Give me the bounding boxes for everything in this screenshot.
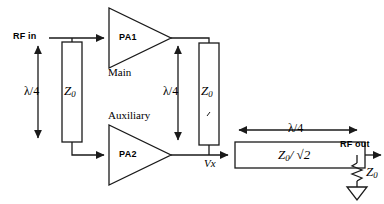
offset-stub-length-label: λ/4 xyxy=(163,85,178,97)
rf-input-label: RF in xyxy=(13,32,37,41)
main-branch-label: Main xyxy=(108,67,131,78)
doherty-amplifier-diagram: RF in PA1 Main Auxiliary PA2 λ/4 Z0 λ/4 … xyxy=(0,0,384,204)
load-impedance-label: Z0 xyxy=(366,165,378,180)
input-stub-impedance-subscript: 0 xyxy=(71,89,75,99)
auxiliary-feed-wire xyxy=(72,142,104,155)
load-impedance-subscript: 0 xyxy=(373,170,377,180)
offset-stub-impedance-label: Z0 xyxy=(201,84,213,99)
auxiliary-branch-label: Auxiliary xyxy=(108,110,150,121)
pa1-label: PA1 xyxy=(119,33,137,42)
offset-stub-impedance-subscript: 0 xyxy=(208,89,212,99)
input-stub-impedance-label: Z0 xyxy=(64,84,76,99)
combiner-impedance-suffix: / √2 xyxy=(290,147,311,162)
vx-node-label: Vx xyxy=(204,158,216,169)
combiner-impedance-label: Z0/ √2 xyxy=(278,148,310,163)
combiner-length-label: λ/4 xyxy=(288,122,303,134)
diagram-canvas xyxy=(0,0,384,204)
pa1-output-wire xyxy=(171,38,209,43)
pa2-label: PA2 xyxy=(119,150,137,159)
input-stub-length-label: λ/4 xyxy=(24,85,39,97)
rf-output-label: RF out xyxy=(340,140,370,149)
ground-symbol xyxy=(347,187,367,200)
